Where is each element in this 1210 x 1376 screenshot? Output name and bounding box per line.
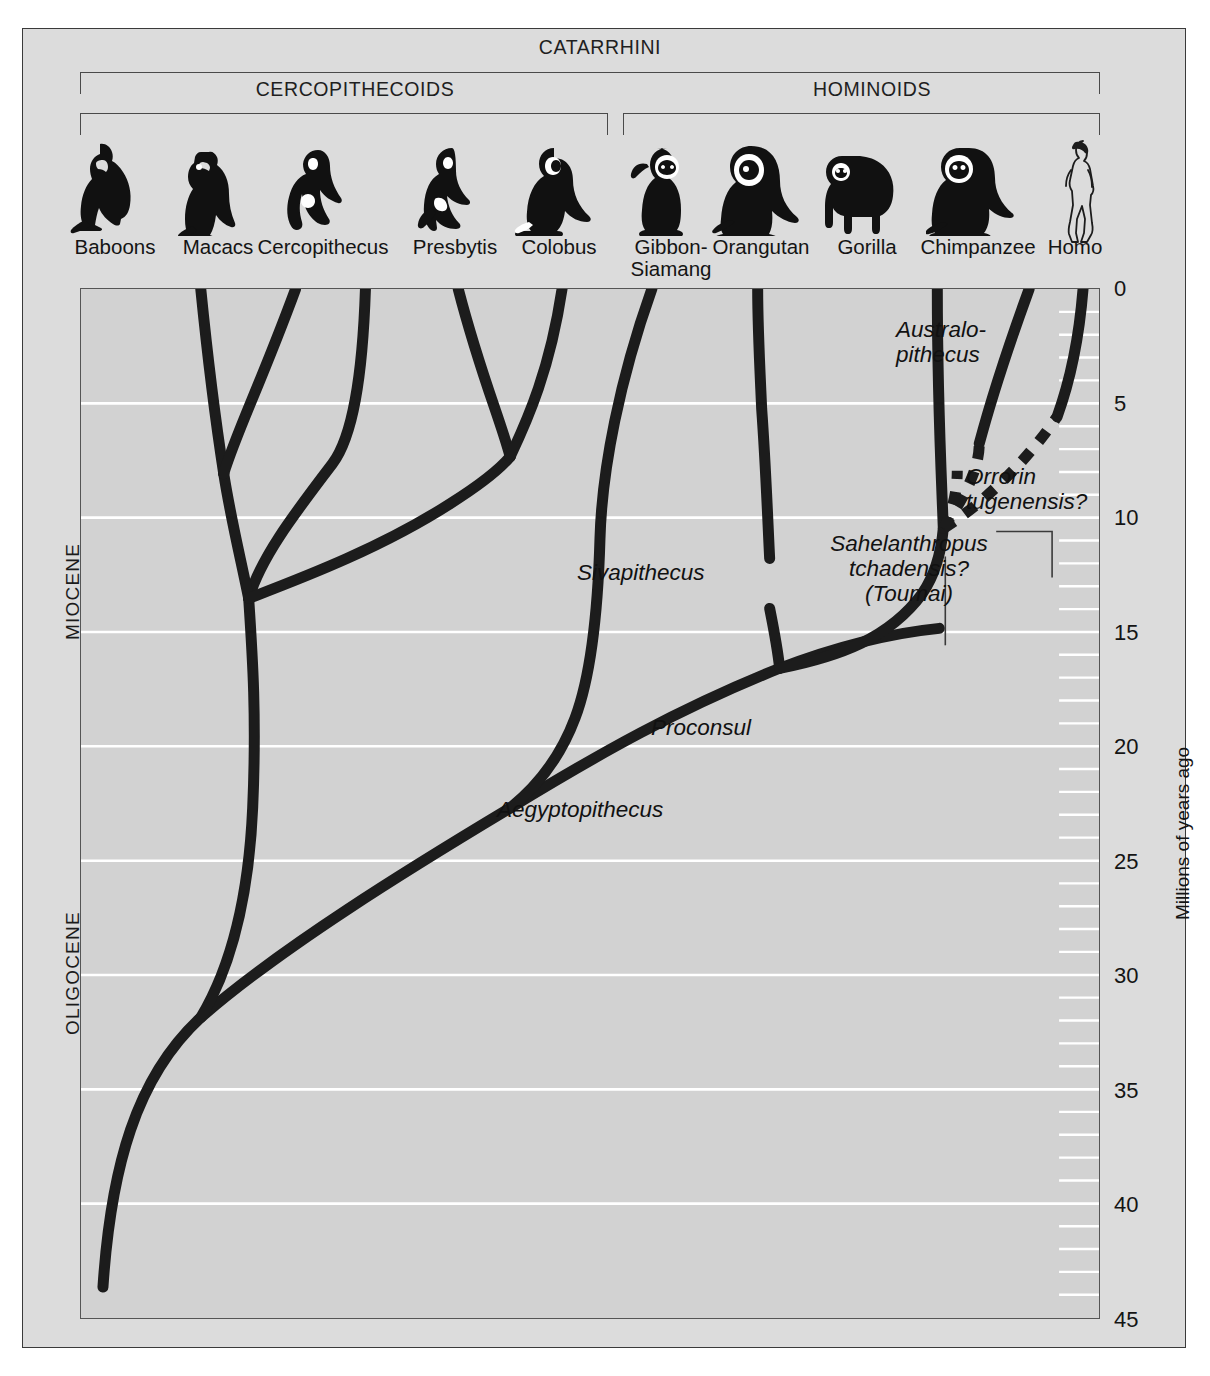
langur-silhouette-icon — [400, 136, 510, 236]
fossil-label-orrorin: Orrorin tugenensis? — [966, 464, 1087, 514]
taxon-label: Baboons — [55, 236, 175, 258]
chimpanzee-silhouette-icon — [912, 136, 1044, 236]
taxon-colobus: Colobus — [500, 136, 618, 258]
phylogeny-plot: Australo- pithecus Orrorin tugenensis? S… — [80, 288, 1100, 1319]
taxon-chimpanzee: Chimpanzee — [912, 136, 1044, 258]
bracket-label-hominoids: HOMINOIDS — [740, 78, 1004, 101]
taxon-label: Presbytis — [400, 236, 510, 258]
bracket-label-cercopithecoids: CERCOPITHECOIDS — [218, 78, 492, 101]
axis-tick-45: 45 — [1114, 1307, 1138, 1333]
taxon-label: Orangutan — [700, 236, 822, 258]
taxon-label: Gorilla — [812, 236, 922, 258]
fossil-label-sivapithecus: Sivapithecus — [577, 560, 705, 585]
figure-root: CATARRHINI CERCOPITHECOIDS HOMINOIDS Bab… — [0, 0, 1210, 1376]
axis-tick-20: 20 — [1114, 734, 1138, 760]
axis-tick-40: 40 — [1114, 1192, 1138, 1218]
axis-tick-0: 0 — [1114, 276, 1126, 302]
taxon-orangutan: Orangutan — [700, 136, 822, 258]
taxon-baboons: Baboons — [55, 136, 175, 258]
bracket-cercopithecoids — [80, 113, 608, 135]
colobus-silhouette-icon — [500, 136, 618, 236]
baboon-silhouette-icon — [55, 136, 175, 236]
bracket-label-catarrhini: CATARRHINI — [460, 36, 740, 59]
fossil-label-aegyptopithecus: Aegyptopithecus — [497, 797, 663, 822]
axis-tick-15: 15 — [1114, 620, 1138, 646]
gorilla-silhouette-icon — [812, 136, 922, 236]
fossil-label-sahelanthropus: Sahelanthropus tchadensis? (Toumai) — [769, 531, 1049, 606]
axis-tick-30: 30 — [1114, 963, 1138, 989]
taxon-gorilla: Gorilla — [812, 136, 922, 258]
orangutan-silhouette-icon — [700, 136, 822, 236]
fossil-label-proconsul: Proconsul — [651, 715, 751, 740]
taxon-label: Chimpanzee — [912, 236, 1044, 258]
fossil-label-australopithecus: Australo- pithecus — [896, 317, 986, 367]
axis-tick-10: 10 — [1114, 505, 1138, 531]
taxon-homo: Homo — [1032, 136, 1118, 258]
taxon-cercopithecus: Cercopithecus — [253, 136, 393, 258]
taxon-presbytis: Presbytis — [400, 136, 510, 258]
bracket-hominoids — [623, 113, 1100, 135]
taxon-label: Cercopithecus — [253, 236, 393, 258]
axis-tick-5: 5 — [1114, 391, 1126, 417]
axis-tick-25: 25 — [1114, 849, 1138, 875]
human-outline-icon — [1032, 136, 1118, 236]
guenon-silhouette-icon — [253, 136, 393, 236]
taxon-label: Colobus — [500, 236, 618, 258]
axis-title: Millions of years ago — [1172, 747, 1194, 920]
axis-tick-35: 35 — [1114, 1078, 1138, 1104]
